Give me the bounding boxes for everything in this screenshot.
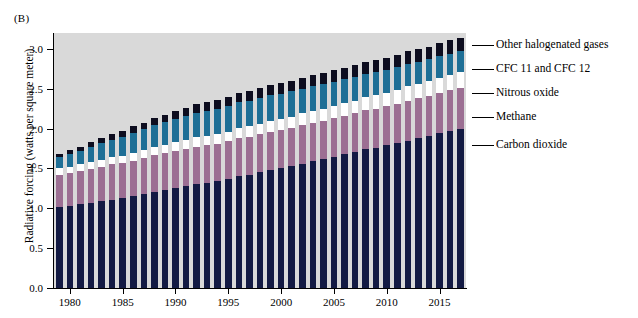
bar-segment-cfc-11-and-cfc-12 <box>310 86 317 111</box>
y-tick-label: 2.0 <box>0 124 43 134</box>
bar-segment-nitrous-oxide <box>183 140 190 149</box>
bar-segment-carbon-dioxide <box>447 131 454 288</box>
bar-segment-nitrous-oxide <box>267 121 274 132</box>
bar-segment-cfc-11-and-cfc-12 <box>246 101 253 127</box>
bar-segment-other-halogenated-gases <box>415 49 422 62</box>
x-tick <box>440 289 441 294</box>
bar-segment-carbon-dioxide <box>193 184 200 288</box>
bar-segment-nitrous-oxide <box>172 142 179 151</box>
bar-segment-cfc-11-and-cfc-12 <box>183 116 190 140</box>
bar-2000 <box>278 0 285 288</box>
bar-segment-methane <box>352 113 359 151</box>
bar-segment-nitrous-oxide <box>130 153 137 161</box>
y-axis-line <box>53 33 54 289</box>
bar-segment-nitrous-oxide <box>151 147 158 155</box>
bar-segment-other-halogenated-gases <box>405 51 412 64</box>
bar-segment-methane <box>278 130 285 168</box>
bar-segment-nitrous-oxide <box>405 86 412 100</box>
bar-segment-cfc-11-and-cfc-12 <box>56 157 63 168</box>
bar-segment-carbon-dioxide <box>119 198 126 288</box>
y-tick <box>47 248 53 249</box>
bar-segment-nitrous-oxide <box>310 111 317 123</box>
bar-segment-nitrous-oxide <box>162 145 169 154</box>
bar-2001 <box>288 0 295 288</box>
bar-segment-methane <box>267 132 274 170</box>
bar-segment-carbon-dioxide <box>415 138 422 288</box>
bar-2011 <box>394 0 401 288</box>
bar-segment-methane <box>457 88 464 129</box>
bar-segment-other-halogenated-gases <box>426 47 433 60</box>
bar-segment-cfc-11-and-cfc-12 <box>288 91 295 117</box>
bar-segment-cfc-11-and-cfc-12 <box>436 56 443 78</box>
bar-segment-cfc-11-and-cfc-12 <box>214 109 221 135</box>
bar-segment-methane <box>236 138 243 176</box>
bar-segment-cfc-11-and-cfc-12 <box>88 147 95 162</box>
bar-segment-nitrous-oxide <box>225 132 232 142</box>
bar-segment-nitrous-oxide <box>447 75 454 90</box>
y-tick <box>47 168 53 169</box>
bar-segment-methane <box>394 104 401 143</box>
bar-segment-methane <box>447 90 454 131</box>
bar-segment-methane <box>214 144 221 181</box>
bar-segment-methane <box>246 137 253 175</box>
bar-1990 <box>172 0 179 288</box>
bar-segment-other-halogenated-gases <box>373 60 380 72</box>
bar-segment-cfc-11-and-cfc-12 <box>172 119 179 142</box>
bar-segment-carbon-dioxide <box>246 175 253 288</box>
bar-segment-carbon-dioxide <box>56 207 63 288</box>
x-tick <box>334 289 335 294</box>
bar-segment-carbon-dioxide <box>310 161 317 288</box>
bar-segment-carbon-dioxide <box>299 164 306 288</box>
bar-segment-other-halogenated-gases <box>436 43 443 57</box>
bar-2005 <box>331 0 338 288</box>
bar-segment-carbon-dioxide <box>162 190 169 288</box>
x-tick-label: 2015 <box>415 296 465 308</box>
bar-segment-other-halogenated-gases <box>214 100 221 109</box>
y-tick <box>47 89 53 90</box>
bar-segment-cfc-11-and-cfc-12 <box>77 151 84 165</box>
bar-segment-carbon-dioxide <box>88 203 95 288</box>
bar-1982 <box>88 0 95 288</box>
x-tick-label: 2005 <box>309 296 359 308</box>
bar-segment-other-halogenated-gases <box>162 115 169 122</box>
bar-segment-other-halogenated-gases <box>310 75 317 86</box>
y-tick <box>47 208 53 209</box>
bar-segment-nitrous-oxide <box>352 101 359 114</box>
bar-segment-cfc-11-and-cfc-12 <box>141 129 148 150</box>
bar-2006 <box>341 0 348 288</box>
bar-segment-nitrous-oxide <box>141 150 148 158</box>
bar-segment-nitrous-oxide <box>457 72 464 88</box>
bar-segment-nitrous-oxide <box>341 103 348 116</box>
bar-segment-nitrous-oxide <box>383 93 390 107</box>
bar-segment-cfc-11-and-cfc-12 <box>236 102 243 128</box>
bar-segment-methane <box>119 163 126 198</box>
bar-segment-other-halogenated-gases <box>236 93 243 103</box>
bar-1989 <box>162 0 169 288</box>
y-tick <box>47 288 53 289</box>
bar-segment-methane <box>77 171 84 204</box>
radiative-forcing-figure: (B) Radiative forcing (watts per square … <box>0 0 638 318</box>
bar-segment-other-halogenated-gases <box>278 83 285 93</box>
bar-segment-methane <box>288 128 295 166</box>
legend-label-carbon-dioxide: Carbon dioxide <box>496 138 567 150</box>
bar-segment-other-halogenated-gases <box>172 111 179 119</box>
legend-label-nitrous-oxide: Nitrous oxide <box>496 86 559 98</box>
bar-segment-nitrous-oxide <box>373 95 380 109</box>
bar-segment-nitrous-oxide <box>331 106 338 119</box>
bar-segment-carbon-dioxide <box>426 136 433 288</box>
bar-segment-carbon-dioxide <box>204 183 211 288</box>
bar-1998 <box>257 0 264 288</box>
bar-2008 <box>362 0 369 288</box>
bar-segment-carbon-dioxide <box>373 148 380 288</box>
bar-segment-other-halogenated-gases <box>447 40 454 54</box>
bar-segment-cfc-11-and-cfc-12 <box>119 137 126 156</box>
bar-segment-cfc-11-and-cfc-12 <box>415 62 422 84</box>
bar-segment-methane <box>383 106 390 145</box>
bar-segment-methane <box>193 147 200 184</box>
bar-segment-carbon-dioxide <box>172 188 179 288</box>
bar-segment-methane <box>172 151 179 188</box>
x-tick-label: 1990 <box>150 296 200 308</box>
bar-segment-cfc-11-and-cfc-12 <box>130 133 137 153</box>
bar-segment-cfc-11-and-cfc-12 <box>405 64 412 86</box>
bar-segment-other-halogenated-gases <box>267 85 274 95</box>
